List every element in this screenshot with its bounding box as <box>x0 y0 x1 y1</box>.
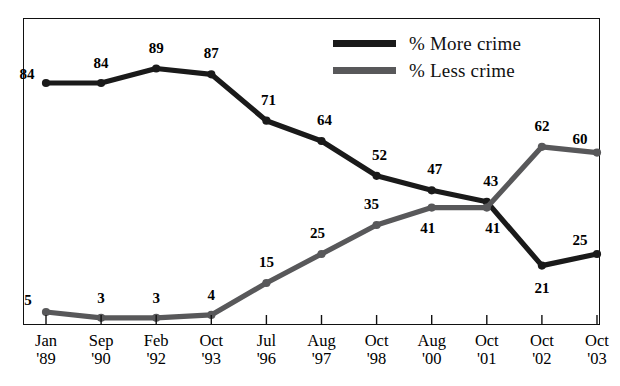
data-label: 43 <box>483 173 498 188</box>
legend-item-label: % More crime <box>409 33 521 55</box>
x-axis-tick-label: Oct'93 <box>199 332 223 369</box>
data-point <box>262 117 270 125</box>
x-tick-month: Jan <box>35 331 57 350</box>
data-point <box>42 308 50 316</box>
data-label: 64 <box>317 112 332 127</box>
x-axis-tick-label: Oct'02 <box>530 332 554 369</box>
x-tick-year: '00 <box>417 350 445 368</box>
data-point <box>483 204 491 212</box>
x-axis-tick-label: Feb'92 <box>144 332 169 369</box>
x-tick-year: '98 <box>365 350 389 368</box>
data-label: 84 <box>94 56 109 71</box>
x-tick-year: '96 <box>257 350 276 368</box>
data-point <box>593 149 601 157</box>
data-point <box>207 70 215 78</box>
data-label: 87 <box>204 46 219 61</box>
x-tick-year: '92 <box>144 350 169 368</box>
legend-item-2: % Less crime <box>333 57 573 84</box>
x-axis-tick-label: Jan'89 <box>35 332 57 369</box>
data-label: 3 <box>97 290 105 305</box>
data-label: 71 <box>261 92 276 107</box>
x-tick-year: '02 <box>530 350 554 368</box>
x-tick-month: Aug <box>307 331 335 350</box>
data-label: 3 <box>152 290 160 305</box>
x-axis-tick-label: Aug'00 <box>417 332 445 369</box>
data-point <box>373 172 381 180</box>
data-point <box>538 262 546 270</box>
data-point <box>593 250 601 258</box>
x-axis-tick-label: Aug'97 <box>307 332 335 369</box>
x-tick-month: Aug <box>417 331 445 350</box>
data-point <box>317 250 325 258</box>
data-label: 35 <box>364 197 379 212</box>
data-label: 41 <box>420 220 435 235</box>
x-tick-year: '90 <box>89 350 114 368</box>
x-axis-tick-label: Oct'01 <box>475 332 499 369</box>
x-tick-year: '93 <box>199 350 223 368</box>
x-tick-year: '97 <box>307 350 335 368</box>
data-point <box>317 137 325 145</box>
data-label: 62 <box>534 118 549 133</box>
chart-legend: % More crime% Less crime <box>333 30 573 84</box>
data-label: 25 <box>573 233 588 248</box>
data-point <box>262 279 270 287</box>
data-point <box>42 79 50 87</box>
data-point <box>538 143 546 151</box>
x-tick-year: '89 <box>35 350 57 368</box>
line-swatch-icon <box>333 40 396 47</box>
x-tick-month: Jul <box>257 331 276 350</box>
data-point <box>373 221 381 229</box>
data-point <box>428 204 436 212</box>
x-axis-tick-label: Sep'90 <box>89 332 114 369</box>
legend-item-1: % More crime <box>333 30 573 57</box>
x-tick-month: Sep <box>89 331 114 350</box>
data-point <box>97 79 105 87</box>
x-tick-month: Feb <box>144 331 169 350</box>
data-label: 41 <box>485 220 500 235</box>
data-label: 5 <box>24 293 32 308</box>
x-tick-month: Oct <box>199 331 223 350</box>
data-label: 4 <box>208 287 216 302</box>
data-label: 89 <box>149 40 164 55</box>
data-label: 47 <box>427 162 442 177</box>
data-point <box>152 64 160 72</box>
data-label: 21 <box>534 280 549 295</box>
data-label: 60 <box>573 131 588 146</box>
data-label: 52 <box>372 147 387 162</box>
x-tick-month: Oct <box>585 331 609 350</box>
x-tick-year: '01 <box>475 350 499 368</box>
x-tick-month: Oct <box>475 331 499 350</box>
x-axis-tick-label: Jul'96 <box>257 332 276 369</box>
x-tick-month: Oct <box>530 331 554 350</box>
data-point <box>428 186 436 194</box>
x-axis-tick-label: Oct'98 <box>365 332 389 369</box>
data-label: 15 <box>259 255 274 270</box>
data-label: 25 <box>310 226 325 241</box>
legend-item-label: % Less crime <box>409 60 515 82</box>
crime-trends-chart: Crime Trends in the U.S. % More crime% L… <box>0 0 620 386</box>
x-tick-month: Oct <box>365 331 389 350</box>
x-axis-tick-label: Oct'03 <box>585 332 609 369</box>
x-tick-year: '03 <box>585 350 609 368</box>
data-label: 84 <box>20 67 35 82</box>
line-swatch-icon <box>333 67 396 74</box>
